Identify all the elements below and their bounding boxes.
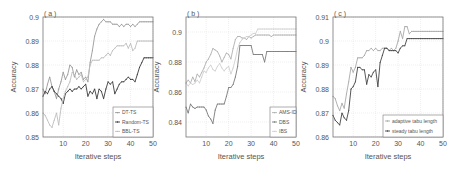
data-point	[357, 67, 358, 68]
data-point	[212, 69, 213, 70]
data-point	[253, 36, 254, 37]
data-point	[217, 103, 218, 104]
data-point	[85, 79, 86, 80]
x-tick-label: 50	[149, 140, 157, 147]
data-point	[197, 106, 198, 107]
data-point	[92, 50, 93, 51]
data-point	[119, 84, 120, 85]
data-point	[266, 34, 267, 35]
data-point	[87, 96, 88, 97]
data-point	[413, 38, 414, 39]
data-point	[228, 54, 229, 55]
panel-label: ( c )	[334, 10, 346, 18]
data-point	[101, 57, 102, 58]
data-point	[56, 93, 57, 94]
data-point	[51, 127, 52, 128]
data-point	[416, 38, 417, 39]
data-point	[224, 103, 225, 104]
data-point	[210, 64, 211, 65]
data-point	[119, 26, 120, 27]
data-point	[429, 31, 430, 32]
data-point	[72, 72, 73, 73]
data-point	[422, 31, 423, 32]
data-point	[355, 67, 356, 68]
data-point	[56, 112, 57, 113]
data-point	[386, 48, 387, 49]
data-point	[121, 24, 122, 25]
data-point	[188, 79, 189, 80]
data-point	[74, 88, 75, 89]
x-tick-label: 40	[270, 140, 278, 147]
data-point	[60, 98, 61, 99]
data-point	[282, 28, 283, 29]
data-point	[217, 51, 218, 52]
data-point	[58, 88, 59, 89]
data-point	[67, 74, 68, 75]
x-tick-label: 50	[439, 140, 447, 147]
data-point	[126, 79, 127, 80]
data-point	[368, 74, 369, 75]
data-point	[348, 110, 349, 111]
data-point	[105, 21, 106, 22]
data-point	[201, 72, 202, 73]
data-point	[400, 31, 401, 32]
data-point	[117, 45, 118, 46]
legend-label: DT-TS	[122, 109, 137, 115]
x-tick-label: 20	[82, 140, 90, 147]
data-point	[226, 52, 227, 53]
data-point	[255, 54, 256, 55]
data-point	[364, 55, 365, 56]
data-point	[242, 37, 243, 38]
x-tick-label: 10	[202, 140, 210, 147]
data-point	[132, 24, 133, 25]
data-point	[219, 55, 220, 56]
data-point	[402, 45, 403, 46]
data-point	[206, 61, 207, 62]
y-tick-label: 0.88	[25, 62, 39, 69]
x-tick-label: 40	[417, 140, 425, 147]
data-point	[74, 74, 75, 75]
x-tick-label: 30	[394, 140, 402, 147]
data-point	[337, 105, 338, 106]
data-point	[266, 28, 267, 29]
data-point	[364, 69, 365, 70]
data-point	[208, 58, 209, 59]
data-point	[407, 38, 408, 39]
data-point	[137, 24, 138, 25]
data-point	[289, 28, 290, 29]
data-point	[221, 61, 222, 62]
data-point	[141, 40, 142, 41]
data-point	[286, 28, 287, 29]
data-point	[253, 33, 254, 34]
x-tick-label: 30	[104, 140, 112, 147]
data-point	[148, 40, 149, 41]
data-point	[233, 84, 234, 85]
data-point	[203, 67, 204, 68]
data-point	[221, 103, 222, 104]
data-point	[114, 93, 115, 94]
data-point	[230, 87, 231, 88]
data-point	[101, 91, 102, 92]
legend-label: BBL-TS	[122, 128, 140, 134]
data-point	[353, 86, 354, 87]
data-point	[350, 67, 351, 68]
legend-marker	[117, 121, 118, 122]
data-point	[83, 81, 84, 82]
data-point	[353, 72, 354, 73]
data-point	[335, 98, 336, 99]
data-point	[420, 38, 421, 39]
data-point	[85, 84, 86, 85]
data-point	[273, 51, 274, 52]
data-point	[219, 103, 220, 104]
data-point	[128, 76, 129, 77]
data-point	[190, 103, 191, 104]
data-point	[264, 34, 265, 35]
data-point	[54, 120, 55, 121]
data-point	[65, 79, 66, 80]
data-point	[239, 45, 240, 46]
x-axis-label: Iterative steps	[218, 152, 265, 161]
data-point	[85, 76, 86, 77]
data-point	[398, 52, 399, 53]
data-point	[282, 34, 283, 35]
data-point	[99, 24, 100, 25]
